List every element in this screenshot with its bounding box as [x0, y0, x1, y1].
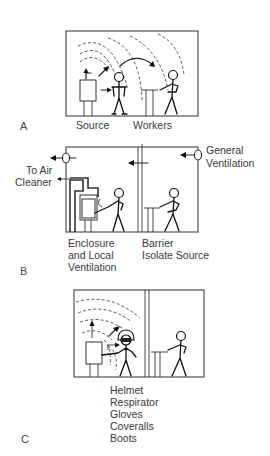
- protected-worker-figure: [102, 330, 136, 376]
- worker-c2-figure: [168, 332, 186, 377]
- panel-c-letter: C: [21, 433, 29, 445]
- respirator-icon: [121, 338, 131, 342]
- arrow-right-icon: [115, 343, 120, 348]
- ppe-item-respirator: Respirator: [110, 396, 158, 408]
- source-machine: [86, 342, 102, 364]
- ppe-item-boots: Boots: [110, 432, 137, 444]
- ppe-item-coveralls: Coveralls: [110, 420, 154, 432]
- ppe-item-gloves: Gloves: [110, 408, 143, 420]
- ppe-item-helmet: Helmet: [110, 384, 143, 396]
- arrow-up-icon: [90, 320, 95, 326]
